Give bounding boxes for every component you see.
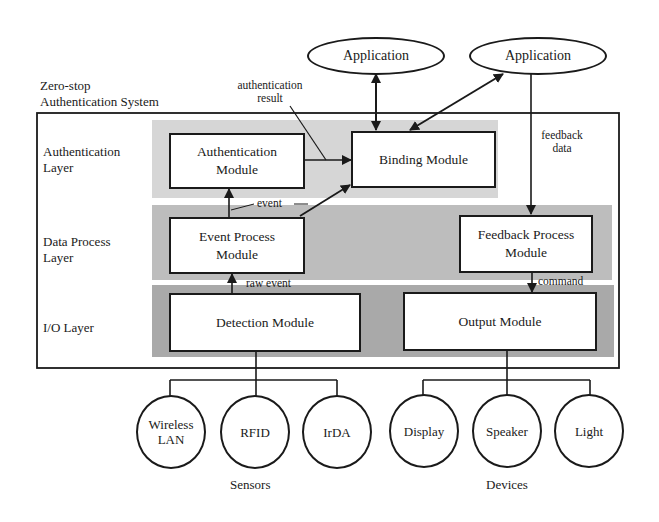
module-label: Feedback Process <box>478 226 574 244</box>
sensors-group-label: Sensors <box>230 477 270 493</box>
module-label: Event Process <box>199 228 275 246</box>
binding-module[interactable]: Binding Module <box>351 131 496 188</box>
layer-label-line: Layer <box>43 250 111 266</box>
layer-label-line: Authentication <box>43 144 120 160</box>
feedback-process-module[interactable]: Feedback Process Module <box>459 215 593 273</box>
module-label: Module <box>505 244 547 262</box>
device-display[interactable]: Display <box>389 394 459 468</box>
device-label: Display <box>404 424 444 439</box>
sensor-label: RFID <box>240 425 270 440</box>
authentication-layer-label: Authentication Layer <box>43 144 120 176</box>
devices-group-label: Devices <box>486 477 528 493</box>
edge-label-line: data <box>537 142 587 155</box>
module-label: Binding Module <box>379 151 468 169</box>
layer-label-line: I/O Layer <box>43 320 94 336</box>
module-label: Module <box>216 246 258 264</box>
data-process-layer-label: Data Process Layer <box>43 234 111 266</box>
raw-event-label: raw event <box>246 277 291 290</box>
device-label: Light <box>575 424 603 439</box>
sensor-label: IrDA <box>323 425 350 440</box>
feedback-data-label: feedback data <box>537 129 587 155</box>
event-label: event <box>257 197 282 210</box>
authentication-result-label: authentication result <box>230 79 310 105</box>
output-module[interactable]: Output Module <box>403 292 597 351</box>
system-title: Zero-stop Authentication System <box>40 78 159 110</box>
application-node-1[interactable]: Application <box>307 37 445 75</box>
application-label-2: Application <box>505 48 571 64</box>
device-light[interactable]: Light <box>554 394 624 468</box>
sensor-irda[interactable]: IrDA <box>302 395 372 469</box>
module-label: Module <box>216 161 258 179</box>
io-layer-label: I/O Layer <box>43 320 94 336</box>
layer-label-line: Data Process <box>43 234 111 250</box>
module-label: Detection Module <box>216 314 314 332</box>
application-node-2[interactable]: Application <box>469 37 607 75</box>
command-label: command <box>538 275 583 288</box>
edge-label-line: authentication <box>230 79 310 92</box>
sensor-label: Wireless <box>149 417 194 432</box>
authentication-module[interactable]: Authentication Module <box>169 133 305 189</box>
module-label: Authentication <box>197 143 277 161</box>
detection-module[interactable]: Detection Module <box>169 293 361 352</box>
device-speaker[interactable]: Speaker <box>472 394 542 468</box>
edge-label-line: feedback <box>537 129 587 142</box>
sensor-wireless-lan[interactable]: Wireless LAN <box>136 395 206 469</box>
system-title-line2: Authentication System <box>40 94 159 110</box>
device-label: Speaker <box>486 424 528 439</box>
event-process-module[interactable]: Event Process Module <box>169 217 305 274</box>
sensor-label: LAN <box>158 432 185 447</box>
system-title-line1: Zero-stop <box>40 78 159 94</box>
application-label-1: Application <box>343 48 409 64</box>
module-label: Output Module <box>459 313 542 331</box>
edge-label-line: result <box>230 92 310 105</box>
layer-label-line: Layer <box>43 160 120 176</box>
sensor-rfid[interactable]: RFID <box>220 395 290 469</box>
